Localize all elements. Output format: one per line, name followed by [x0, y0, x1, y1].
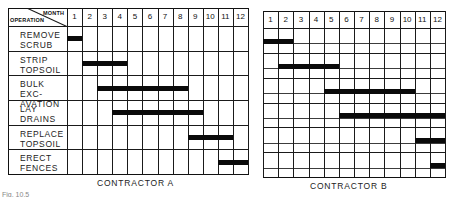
- task-bar: [339, 113, 445, 118]
- header-month-label: MONTH: [43, 10, 64, 16]
- month-label-9: 9: [188, 12, 203, 22]
- grid-line: [263, 127, 445, 128]
- month-label-11: 11: [415, 15, 430, 25]
- operation-label: REMOVESCRUB: [20, 30, 60, 50]
- contractor-a-label: CONTRACTOR A: [97, 178, 174, 188]
- task-bar: [415, 138, 445, 143]
- month-label-2: 2: [278, 15, 293, 25]
- task-bar: [218, 160, 248, 165]
- grid-line: [248, 8, 249, 174]
- task-bar: [82, 61, 127, 66]
- month-label-12: 12: [233, 12, 248, 22]
- month-label-7: 7: [158, 12, 173, 22]
- month-label-10: 10: [400, 15, 415, 25]
- operation-label: ERECTFENCES: [20, 153, 58, 173]
- month-label-4: 4: [112, 12, 127, 22]
- grid-line: [445, 11, 446, 177]
- task-bar: [112, 110, 203, 115]
- grid-line: [263, 78, 445, 79]
- month-label-7: 7: [354, 15, 369, 25]
- month-label-8: 8: [369, 15, 384, 25]
- grid-line: [263, 53, 445, 54]
- month-label-11: 11: [218, 12, 233, 22]
- month-label-5: 5: [324, 15, 339, 25]
- grid-line: [263, 152, 445, 153]
- grid-line: [263, 103, 445, 104]
- header-divider: [263, 28, 445, 29]
- operation-label: LAYDRAINS: [20, 104, 56, 124]
- month-label-1: 1: [263, 15, 278, 25]
- task-bar: [430, 163, 445, 168]
- month-label-3: 3: [293, 15, 308, 25]
- month-label-9: 9: [384, 15, 399, 25]
- task-bar: [263, 39, 293, 44]
- month-label-2: 2: [82, 12, 97, 22]
- figure-caption: Fig. 10.5: [2, 191, 29, 197]
- month-label-5: 5: [127, 12, 142, 22]
- operation-label: STRIPTOPSOIL: [20, 55, 61, 75]
- month-label-10: 10: [203, 12, 218, 22]
- grid-line: [8, 75, 248, 76]
- grid-subline: [263, 168, 445, 169]
- month-label-3: 3: [97, 12, 112, 22]
- task-bar: [97, 86, 188, 91]
- month-label-6: 6: [339, 15, 354, 25]
- grid-line: [8, 125, 248, 126]
- task-bar: [278, 64, 339, 69]
- operation-label: REPLACETOPSOIL: [20, 129, 64, 149]
- header-operation-label: OPERATION: [10, 17, 44, 23]
- month-label-8: 8: [173, 12, 188, 22]
- grid-line: [8, 149, 248, 150]
- grid-line: [8, 51, 248, 52]
- task-bar: [67, 36, 82, 41]
- month-label-1: 1: [67, 12, 82, 22]
- month-label-4: 4: [309, 15, 324, 25]
- task-bar: [324, 89, 415, 94]
- task-bar: [188, 135, 233, 140]
- header-divider: [8, 26, 248, 27]
- month-label-12: 12: [430, 15, 445, 25]
- contractor-b-label: CONTRACTOR B: [310, 181, 387, 191]
- month-label-6: 6: [142, 12, 157, 22]
